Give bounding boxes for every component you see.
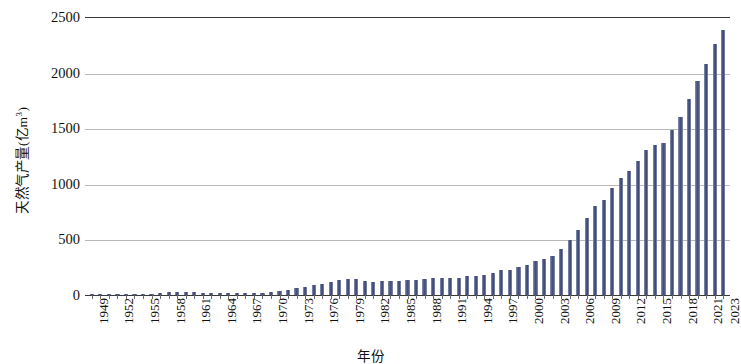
bar [457, 278, 461, 295]
bar [568, 240, 572, 295]
bar [713, 44, 717, 295]
x-tick-label: 1985 [404, 298, 417, 324]
x-tick-label: 2003 [558, 298, 571, 324]
bar-series [85, 18, 730, 295]
bar [491, 273, 495, 295]
bar [627, 171, 631, 295]
bar [687, 99, 691, 295]
bar [303, 287, 307, 295]
x-tick-label: 2009 [609, 298, 622, 324]
x-tick-label: 1964 [225, 298, 238, 324]
x-tick-label: 1979 [353, 298, 366, 324]
x-tick-label: 2000 [532, 298, 545, 324]
x-tick-label: 1976 [327, 298, 340, 324]
bar [397, 281, 401, 295]
x-tick-label: 2006 [583, 298, 596, 324]
bar [448, 278, 452, 295]
y-tick-label: 0 [2, 288, 80, 303]
x-tick-label: 1955 [148, 298, 161, 324]
plot-area [85, 17, 730, 295]
bar [346, 279, 350, 295]
bar [525, 265, 529, 295]
bar [576, 230, 580, 295]
bar [636, 161, 640, 295]
x-tick-label: 2021 [711, 298, 724, 324]
bar [380, 281, 384, 295]
bar [388, 281, 392, 295]
bar [619, 178, 623, 295]
bar [550, 256, 554, 295]
bar [653, 145, 657, 295]
bar [320, 284, 324, 295]
bar [354, 279, 358, 295]
y-tick-label: 2500 [2, 10, 80, 25]
bar [337, 280, 341, 295]
bar [440, 278, 444, 295]
x-tick-label: 1970 [276, 298, 289, 324]
bar [499, 270, 503, 295]
bar [516, 267, 520, 295]
bar [695, 81, 699, 295]
x-tick-label: 2023 [728, 298, 741, 324]
x-tick-label: 1961 [199, 298, 212, 324]
bar [329, 282, 333, 295]
bar [465, 276, 469, 295]
x-tick-label: 1967 [250, 298, 263, 324]
bar [670, 130, 674, 295]
bar [721, 30, 725, 295]
x-tick-label: 1973 [302, 298, 315, 324]
x-tick-label: 1958 [174, 298, 187, 324]
bar [405, 280, 409, 295]
x-tick-label: 1994 [481, 298, 494, 324]
bar [542, 259, 546, 295]
y-tick-label: 1000 [2, 177, 80, 192]
bar [422, 279, 426, 295]
bar [414, 280, 418, 295]
bar [678, 117, 682, 295]
x-axis-title: 年份 [0, 345, 741, 364]
bar [661, 143, 665, 295]
y-tick-label: 2000 [2, 65, 80, 80]
bar [474, 276, 478, 295]
x-tick-label: 1991 [455, 298, 468, 324]
bar [431, 278, 435, 295]
x-tick-label: 1952 [122, 298, 135, 324]
bar [593, 206, 597, 295]
bar [644, 150, 648, 295]
x-tick-label: 1988 [430, 298, 443, 324]
x-tick-label: 1982 [378, 298, 391, 324]
x-tick-label: 2012 [634, 298, 647, 324]
y-tick-label: 1500 [2, 121, 80, 136]
bar [559, 249, 563, 295]
y-axis-tick-labels: 05001000150020002500 [0, 0, 80, 364]
bar [610, 188, 614, 295]
x-tick-label: 2015 [660, 298, 673, 324]
bar [312, 285, 316, 295]
bar [482, 275, 486, 295]
bar [585, 218, 589, 295]
y-tick-label: 500 [2, 232, 80, 247]
x-tick-label: 2018 [686, 298, 699, 324]
bar [363, 281, 367, 295]
x-tick-label: 1949 [97, 298, 110, 324]
bar [533, 261, 537, 295]
bar [371, 282, 375, 295]
bar [602, 200, 606, 295]
natural-gas-production-bar-chart: 天然气产量(亿m3) 05001000150020002500 19491952… [0, 0, 741, 364]
x-tick-label: 1997 [506, 298, 519, 324]
bar [704, 64, 708, 295]
x-axis-tick-labels: 1949195219551958196119641967197019731976… [85, 298, 730, 346]
bar [508, 270, 512, 295]
